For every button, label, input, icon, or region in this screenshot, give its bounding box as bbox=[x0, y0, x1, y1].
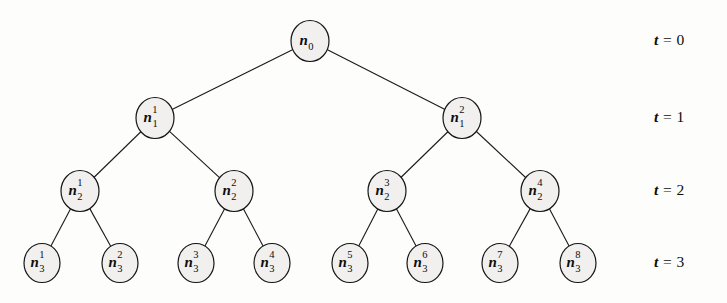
edge-layer bbox=[50, 49, 569, 247]
t-label-0-equals: = bbox=[659, 31, 677, 48]
tree-edge-n2_3-to-n3_5 bbox=[358, 208, 378, 247]
node-superscript-n2_4: 4 bbox=[537, 177, 543, 188]
node-superscript-n1_1: 1 bbox=[152, 104, 157, 115]
tree-edge-n2_3-to-n3_6 bbox=[396, 208, 417, 247]
node-subscript-n3_8: 3 bbox=[575, 263, 580, 274]
node-superscript-n3_4: 4 bbox=[269, 249, 275, 260]
tree-edge-n2_4-to-n3_7 bbox=[509, 208, 531, 248]
tree-edge-n2_2-to-n3_4 bbox=[243, 208, 264, 247]
node-subscript-n1_1: 1 bbox=[152, 118, 157, 129]
tree-edge-n1_2-to-n2_4 bbox=[476, 131, 526, 178]
t-label-0: t = 0 bbox=[654, 31, 685, 49]
tree-edge-n2_4-to-n3_8 bbox=[549, 208, 570, 247]
t-label-1-equals: = bbox=[659, 108, 677, 125]
tree-node-n0[interactable]: n0 bbox=[291, 21, 329, 62]
tree-node-n3_1[interactable]: n31 bbox=[24, 244, 60, 283]
tree-edge-n1_1-to-n2_2 bbox=[169, 131, 220, 178]
tree-node-n1_2[interactable]: n12 bbox=[443, 98, 481, 139]
node-subscript-n2_1: 2 bbox=[77, 191, 82, 202]
tree-edge-n2_1-to-n3_2 bbox=[89, 208, 111, 248]
tree-edge-n2_1-to-n3_1 bbox=[50, 208, 71, 247]
node-subscript-n2_2: 2 bbox=[231, 191, 236, 202]
node-subscript-n3_5: 3 bbox=[347, 263, 352, 274]
t-label-3-equals: = bbox=[659, 253, 677, 270]
tree-node-n1_1[interactable]: n11 bbox=[136, 98, 174, 139]
tree-node-n3_3[interactable]: n33 bbox=[178, 244, 214, 283]
t-label-2: t = 2 bbox=[654, 181, 685, 199]
node-superscript-n2_2: 2 bbox=[231, 177, 236, 188]
tree-edge-n2_2-to-n3_3 bbox=[204, 208, 225, 247]
node-superscript-n3_1: 1 bbox=[39, 249, 44, 260]
node-subscript-n0: 0 bbox=[308, 41, 313, 52]
tree-edge-n1_2-to-n2_3 bbox=[401, 131, 449, 177]
t-label-0-value: 0 bbox=[676, 31, 684, 48]
node-subscript-n2_3: 2 bbox=[384, 191, 389, 202]
tree-node-n3_7[interactable]: n37 bbox=[482, 244, 518, 283]
tree-node-n2_4[interactable]: n24 bbox=[521, 171, 559, 212]
t-label-2-value: 2 bbox=[676, 181, 684, 198]
t-label-1: t = 1 bbox=[654, 108, 685, 126]
node-subscript-n1_2: 1 bbox=[459, 118, 464, 129]
t-label-3: t = 3 bbox=[654, 253, 685, 271]
tree-node-n3_5[interactable]: n35 bbox=[332, 244, 368, 283]
t-label-2-equals: = bbox=[659, 181, 677, 198]
tree-node-n3_2[interactable]: n32 bbox=[102, 244, 138, 283]
node-subscript-n3_2: 3 bbox=[117, 263, 122, 274]
tree-node-n2_3[interactable]: n23 bbox=[368, 171, 406, 212]
node-subscript-n3_7: 3 bbox=[497, 263, 502, 274]
tree-node-n3_4[interactable]: n34 bbox=[254, 244, 290, 283]
node-superscript-n3_2: 2 bbox=[117, 249, 122, 260]
node-superscript-n2_3: 3 bbox=[384, 177, 389, 188]
figure-canvas: n0n11n12n21n22n23n24n31n32n33n34n35n36n3… bbox=[0, 0, 727, 303]
tree-node-n2_2[interactable]: n22 bbox=[215, 171, 253, 212]
node-superscript-n3_3: 3 bbox=[193, 249, 198, 260]
tree-node-n2_1[interactable]: n21 bbox=[61, 171, 99, 212]
tree-node-n3_8[interactable]: n38 bbox=[560, 244, 596, 283]
tree-node-n3_6[interactable]: n36 bbox=[407, 244, 443, 283]
node-superscript-n3_8: 8 bbox=[575, 249, 580, 260]
node-subscript-n3_3: 3 bbox=[193, 263, 198, 274]
t-label-1-value: 1 bbox=[676, 108, 684, 125]
node-subscript-n3_1: 3 bbox=[39, 263, 44, 274]
node-subscript-n2_4: 2 bbox=[537, 191, 542, 202]
node-layer: n0n11n12n21n22n23n24n31n32n33n34n35n36n3… bbox=[24, 21, 596, 283]
node-superscript-n2_1: 1 bbox=[77, 177, 82, 188]
t-label-3-value: 3 bbox=[676, 253, 684, 270]
tree-edge-n0-to-n1_1 bbox=[172, 49, 293, 109]
node-superscript-n1_2: 2 bbox=[459, 104, 464, 115]
node-subscript-n3_4: 3 bbox=[269, 263, 274, 274]
tree-edge-n1_1-to-n2_1 bbox=[94, 131, 142, 177]
tree-edge-n0-to-n1_2 bbox=[327, 50, 445, 110]
node-superscript-n3_5: 5 bbox=[347, 249, 352, 260]
node-superscript-n3_6: 6 bbox=[422, 249, 427, 260]
binary-tree-svg: n0n11n12n21n22n23n24n31n32n33n34n35n36n3… bbox=[0, 0, 727, 303]
node-subscript-n3_6: 3 bbox=[422, 263, 427, 274]
node-superscript-n3_7: 7 bbox=[497, 249, 502, 260]
